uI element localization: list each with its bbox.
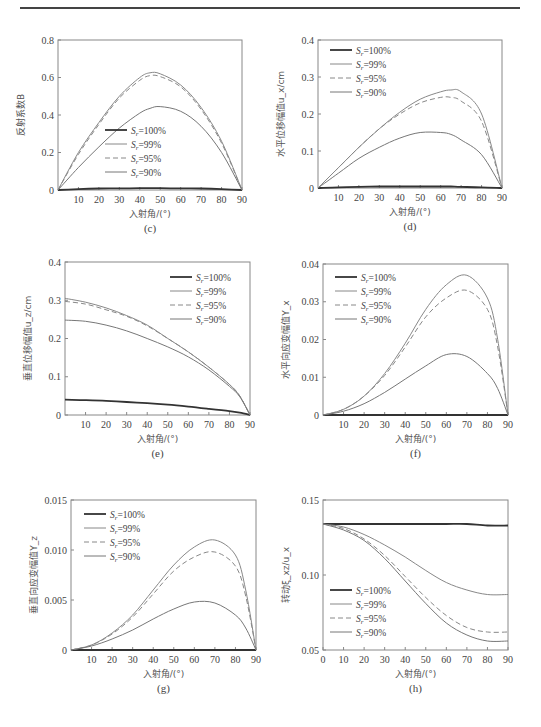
y-axis-label: 水平向应变幅值Y_x: [280, 300, 291, 379]
y-tick-label: 0: [309, 183, 314, 194]
y-axis-label: 反射系数B: [15, 94, 26, 136]
legend-entry: Sr=100%: [356, 46, 391, 58]
y-tick-label: 0.05: [302, 645, 320, 656]
x-tick-label: 90: [503, 654, 513, 665]
x-tick-label: 60: [441, 419, 451, 430]
series-line: [71, 601, 256, 650]
legend-entry: Sr=99%: [361, 287, 391, 299]
y-tick-label: 0.1: [49, 371, 62, 382]
series-line: [323, 290, 508, 415]
series-line: [323, 524, 508, 632]
x-axis-label: 入射角/(°): [137, 433, 179, 444]
y-tick-label: 0: [314, 410, 319, 421]
legend-entry: Sr=100%: [131, 126, 166, 138]
y-tick-label: 0.2: [49, 333, 62, 344]
legend: Sr=100%Sr=99%Sr=95%Sr=90%: [105, 126, 166, 180]
legend-entry: Sr=95%: [356, 614, 386, 626]
legend-entry: Sr=100%: [110, 510, 145, 522]
y-tick-label: 0: [56, 410, 61, 421]
legend-entry: Sr=99%: [356, 600, 386, 612]
legend-entry: Sr=99%: [131, 140, 161, 152]
x-axis-label: 入射角/(°): [129, 208, 171, 219]
x-tick-label: 40: [400, 654, 410, 665]
x-tick-label: 20: [354, 192, 364, 203]
series-line: [318, 89, 502, 188]
y-tick-label: 0.8: [42, 35, 55, 46]
x-tick-label: 50: [163, 419, 173, 430]
x-tick-label: 50: [415, 192, 425, 203]
legend-entry: Sr=90%: [361, 315, 391, 327]
x-tick-label: 60: [183, 419, 193, 430]
x-tick-label: 50: [421, 654, 431, 665]
x-tick-label: 30: [374, 192, 384, 203]
legend: Sr=100%Sr=99%Sr=95%Sr=90%: [170, 273, 231, 327]
legend-entry: Sr=99%: [356, 60, 386, 72]
x-tick-label: 90: [251, 654, 261, 665]
x-tick-label: 0: [321, 654, 326, 665]
y-tick-label: 0.3: [302, 72, 315, 83]
x-tick-label: 70: [456, 192, 466, 203]
x-tick-label: 70: [210, 654, 220, 665]
x-axis-label: 入射角/(°): [389, 206, 431, 217]
y-tick-label: 0.2: [42, 147, 55, 158]
x-tick-label: 70: [204, 419, 214, 430]
x-tick-label: 80: [230, 654, 240, 665]
series-line: [318, 97, 502, 188]
x-tick-label: 80: [477, 192, 487, 203]
series-line: [323, 524, 508, 641]
x-axis-label: 入射角/(°): [395, 433, 437, 444]
y-axis-label: 转动ξ_xz/u_x: [280, 546, 291, 603]
legend-entry: Sr=90%: [110, 552, 140, 564]
x-tick-label: 80: [482, 654, 492, 665]
y-tick-label: 0.2: [302, 109, 315, 120]
x-tick-label: 10: [87, 654, 97, 665]
y-tick-label: 0.04: [302, 259, 320, 270]
chart-panel-g: 10203040506070809000.0050.0100.015入射角/(°…: [28, 495, 261, 696]
legend: Sr=100%Sr=99%Sr=95%Sr=90%: [330, 586, 391, 640]
chart-panel-f: 10203040506070809000.010.020.030.04入射角/(…: [280, 259, 513, 461]
x-tick-label: 80: [482, 419, 492, 430]
x-tick-label: 70: [462, 654, 472, 665]
x-tick-label: 90: [503, 419, 513, 430]
x-tick-label: 80: [217, 194, 227, 205]
y-tick-label: 0: [62, 645, 67, 656]
legend-entry: Sr=90%: [356, 88, 386, 100]
legend-entry: Sr=99%: [110, 524, 140, 536]
x-tick-label: 30: [122, 419, 132, 430]
x-tick-label: 10: [339, 654, 349, 665]
panel-caption: (d): [404, 220, 417, 233]
x-tick-label: 40: [142, 419, 152, 430]
series-line: [71, 552, 256, 650]
series-line: [323, 524, 508, 526]
y-tick-label: 0.15: [302, 495, 320, 506]
panel-caption: (h): [409, 682, 422, 695]
panel-caption: (f): [410, 447, 421, 460]
legend-entry: Sr=95%: [110, 538, 140, 550]
legend: Sr=100%Sr=99%Sr=95%Sr=90%: [330, 46, 391, 100]
x-tick-label: 20: [101, 419, 111, 430]
y-tick-label: 0.03: [302, 296, 320, 307]
legend-entry: Sr=95%: [196, 301, 226, 313]
y-tick-label: 0: [49, 185, 54, 196]
plot-frame: [65, 262, 250, 415]
panel-caption: (c): [144, 222, 157, 235]
y-tick-label: 0.02: [302, 334, 320, 345]
panel-caption: (g): [157, 682, 170, 695]
plot-frame: [323, 500, 508, 650]
x-tick-label: 30: [380, 654, 390, 665]
series-line: [323, 275, 508, 415]
x-tick-label: 10: [333, 192, 343, 203]
x-tick-label: 20: [107, 654, 117, 665]
x-tick-label: 10: [73, 194, 83, 205]
x-tick-label: 20: [359, 654, 369, 665]
chart-panel-d: 10203040506070809000.10.20.30.4入射角/(°)(d…: [275, 35, 507, 234]
y-tick-label: 0.3: [49, 295, 62, 306]
y-axis-label: 垂直向应变幅值Y_z: [28, 536, 39, 614]
panel-caption: (e): [151, 447, 164, 460]
legend-entry: Sr=90%: [131, 168, 161, 180]
legend-entry: Sr=95%: [361, 301, 391, 313]
x-tick-label: 20: [359, 419, 369, 430]
x-tick-label: 10: [339, 419, 349, 430]
plot-frame: [71, 500, 256, 650]
legend-entry: Sr=95%: [356, 74, 386, 86]
